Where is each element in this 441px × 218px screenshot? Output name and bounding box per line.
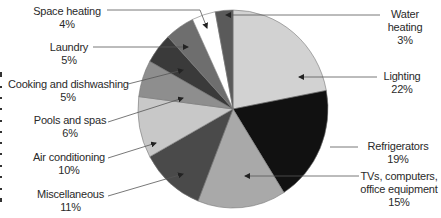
label-name: Cooking and dishwashing	[8, 78, 128, 91]
label-name: Space heating	[26, 5, 108, 18]
label-pct: 5%	[8, 91, 128, 104]
label-water-heating: Water heating 3%	[379, 8, 431, 47]
label-pct: 15%	[357, 196, 441, 209]
label-miscellaneous: Miscellaneous 11%	[33, 188, 108, 214]
label-pct: 6%	[32, 127, 108, 140]
label-name: Pools and spas	[32, 114, 108, 127]
label-name: office equipment	[357, 183, 441, 196]
label-pct: 10%	[30, 164, 108, 177]
label-refrigerators: Refrigerators 19%	[358, 140, 438, 166]
label-cooking: Cooking and dishwashing 5%	[8, 78, 128, 104]
label-pct: 3%	[379, 34, 431, 47]
pie-slices	[138, 10, 328, 208]
label-lighting: Lighting 22%	[377, 70, 427, 96]
label-pct: 19%	[358, 153, 438, 166]
label-pct: 11%	[33, 201, 108, 214]
label-pools: Pools and spas 6%	[32, 114, 108, 140]
label-air-conditioning: Air conditioning 10%	[30, 151, 108, 177]
label-name: heating	[379, 21, 431, 34]
label-pct: 4%	[26, 18, 108, 31]
label-name: Miscellaneous	[33, 188, 108, 201]
label-name: Water	[379, 8, 431, 21]
label-space-heating: Space heating 4%	[26, 5, 108, 31]
label-tvs: TVs, computers, office equipment 15%	[357, 170, 441, 209]
label-pct: 22%	[377, 83, 427, 96]
label-name: Air conditioning	[30, 151, 108, 164]
label-name: Refrigerators	[358, 140, 438, 153]
label-name: TVs, computers,	[357, 170, 441, 183]
label-name: Lighting	[377, 70, 427, 83]
label-pct: 5%	[46, 54, 92, 67]
label-name: Laundry	[46, 41, 92, 54]
label-laundry: Laundry 5%	[46, 41, 92, 67]
